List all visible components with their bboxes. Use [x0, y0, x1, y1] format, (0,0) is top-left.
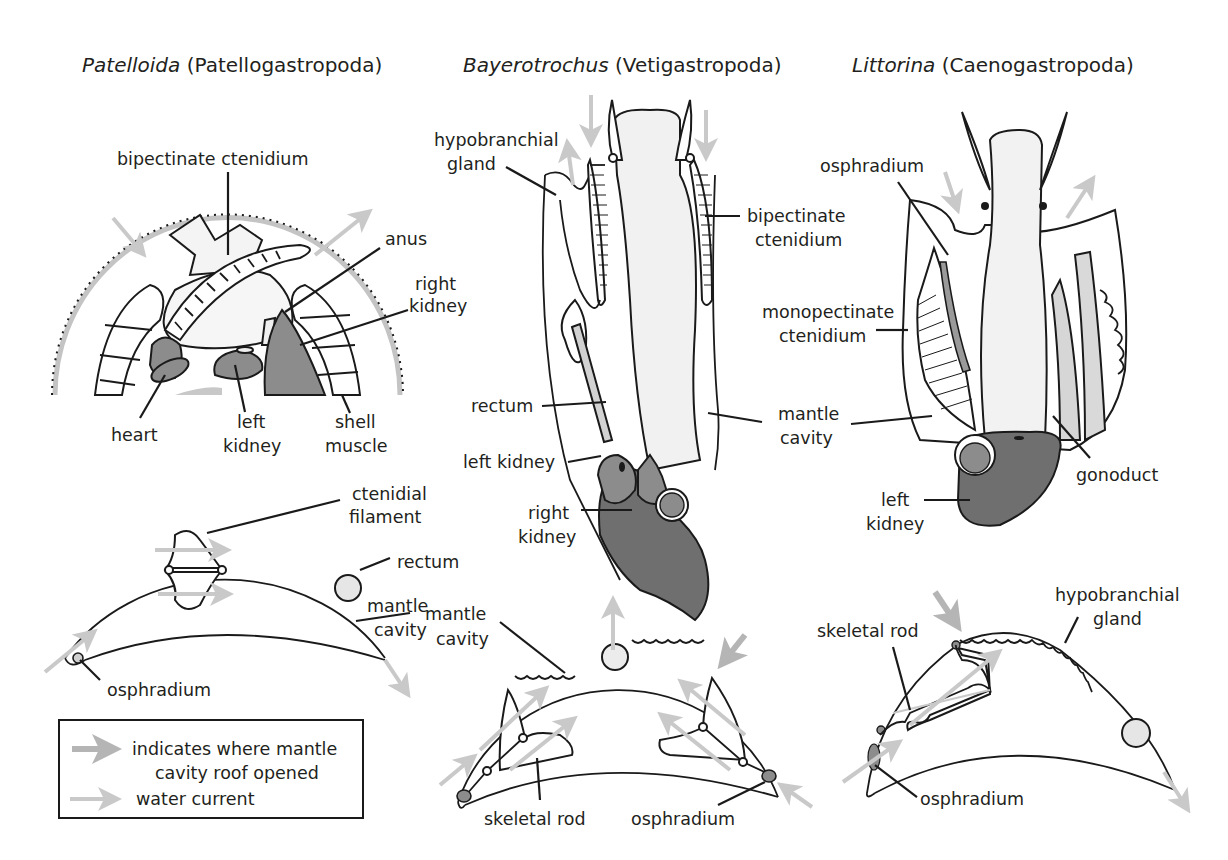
- label-left-kidney-l2: kidney: [223, 436, 281, 456]
- label-right-kidney-l2: kidney: [518, 527, 576, 547]
- label-mantle-cavity-l1: mantle: [367, 596, 428, 616]
- svg-text:Littorina (Caenogastropoda): Littorina (Caenogastropoda): [852, 53, 1134, 77]
- label-right-kidney-l1: right: [415, 274, 456, 294]
- label-hypobranchial-gland-l2: gland: [447, 154, 496, 174]
- patelloida-cross-section: [45, 500, 410, 690]
- label-mantle-cavity-section-l1: mantle: [425, 604, 486, 624]
- genus-name: Patelloida: [82, 53, 180, 77]
- label-right-kidney-l2: kidney: [409, 296, 467, 316]
- label-hypobranchial-gland-l1: hypobranchial: [1055, 585, 1180, 605]
- label-skeletal-rod: skeletal rod: [484, 809, 586, 829]
- label-bipectinate-ctenidium: bipectinate ctenidium: [117, 149, 309, 169]
- label-left-kidney-l2: kidney: [866, 514, 924, 534]
- label-osphradium: osphradium: [820, 156, 924, 176]
- label-bipectinate-ctenidium-l2: ctenidium: [755, 230, 842, 250]
- label-ctenidial-filament-l1: ctenidial: [352, 484, 427, 504]
- label-left-kidney-l1: left: [237, 412, 265, 432]
- panel-title-littorina: Littorina (Caenogastropoda): [852, 53, 1134, 77]
- label-monopectinate-ctenidium-l1: monopectinate: [762, 302, 894, 322]
- label-hypobranchial-gland-l1: hypobranchial: [434, 130, 559, 150]
- clade-name: (Caenogastropoda): [942, 53, 1134, 77]
- label-osphradium-section: osphradium: [920, 789, 1024, 809]
- label-anus: anus: [385, 229, 427, 249]
- genus-name: Littorina: [852, 53, 935, 77]
- label-monopectinate-ctenidium-l2: ctenidium: [779, 326, 866, 346]
- legend-mantle-opened-l1: indicates where mantle: [132, 739, 337, 759]
- label-mantle-cavity-l2: cavity: [780, 428, 833, 448]
- label-left-kidney: left kidney: [463, 452, 555, 472]
- label-osphradium: osphradium: [107, 680, 211, 700]
- label-shell-muscle-l1: shell: [335, 412, 376, 432]
- legend-water-current: water current: [136, 789, 255, 809]
- clade-name: (Patellogastropoda): [187, 53, 383, 77]
- label-rectum: rectum: [397, 552, 459, 572]
- label-rectum: rectum: [471, 396, 533, 416]
- gastropod-mantle-cavity-figure: Patelloida (Patellogastropoda) Bayerotro…: [0, 0, 1228, 860]
- label-mantle-cavity-l2: cavity: [374, 620, 427, 640]
- svg-text:Patelloida (Patellogastropoda): Patelloida (Patellogastropoda): [82, 53, 382, 77]
- label-bipectinate-ctenidium-l1: bipectinate: [747, 206, 846, 226]
- label-hypobranchial-gland-l2: gland: [1093, 609, 1142, 629]
- label-ctenidial-filament-l2: filament: [349, 507, 422, 527]
- bayerotrochus-cross-section: [440, 605, 812, 808]
- label-mantle-cavity-l1: mantle: [778, 404, 839, 424]
- panel-title-bayerotrochus: Bayerotrochus (Vetigastropoda): [463, 53, 782, 77]
- label-gonoduct: gonoduct: [1076, 465, 1158, 485]
- genus-name: Bayerotrochus: [463, 53, 609, 77]
- legend-mantle-opened-l2: cavity roof opened: [155, 763, 319, 783]
- label-heart: heart: [111, 425, 158, 445]
- label-right-kidney-l1: right: [528, 503, 569, 523]
- panel-title-patelloida: Patelloida (Patellogastropoda): [82, 53, 382, 77]
- legend: indicates where mantle cavity roof opene…: [59, 720, 363, 818]
- label-mantle-cavity-section-l2: cavity: [436, 629, 489, 649]
- label-shell-muscle-l2: muscle: [325, 436, 388, 456]
- svg-text:Bayerotrochus (Vetigastropoda): Bayerotrochus (Vetigastropoda): [463, 53, 782, 77]
- label-osphradium: osphradium: [631, 809, 735, 829]
- label-left-kidney-l1: left: [881, 490, 909, 510]
- patelloida-dorsal-diagram: [52, 172, 408, 418]
- clade-name: (Vetigastropoda): [615, 53, 782, 77]
- label-skeletal-rod: skeletal rod: [817, 621, 919, 641]
